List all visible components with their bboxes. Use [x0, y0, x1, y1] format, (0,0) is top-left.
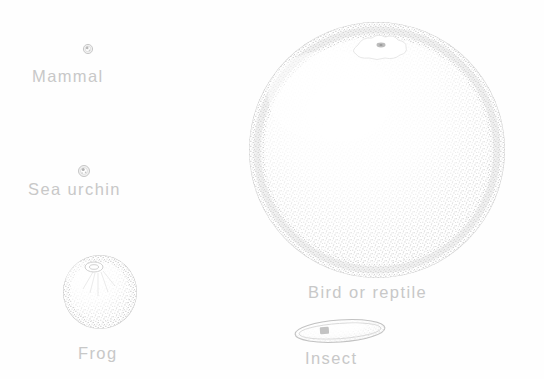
egg-bird-or-reptile [249, 22, 505, 278]
label-mammal: Mammal [32, 68, 104, 85]
egg-mammal [83, 44, 92, 53]
egg-frog [63, 255, 137, 329]
egg-size-figure: Mammal Sea urchin Frog Bird or reptile I… [0, 0, 544, 379]
label-sea-urchin: Sea urchin [28, 181, 121, 198]
label-frog: Frog [78, 345, 118, 362]
egg-insect [294, 317, 385, 345]
label-insect: Insect [305, 350, 357, 367]
frog-egg-animal-pole [85, 262, 103, 272]
egg-sea-urchin [79, 166, 90, 177]
label-bird-or-reptile: Bird or reptile [308, 284, 427, 301]
